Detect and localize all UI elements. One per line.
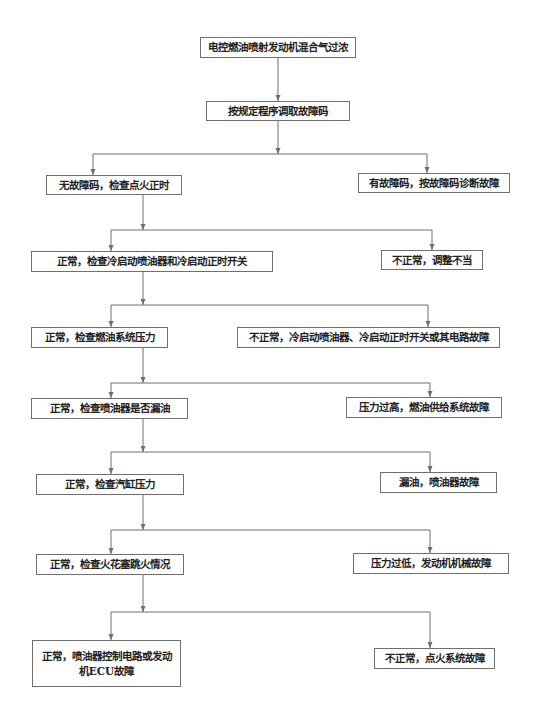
node-start: 电控燃油喷射发动机混合气过浓 (200, 37, 356, 58)
node-label: 正常，检查喷油器是否漏油 (50, 401, 170, 416)
node-check-injector-leak: 正常，检查喷油器是否漏油 (31, 398, 188, 419)
node-label: 正常，检查汽缸压力 (65, 477, 155, 492)
node-label: 电控燃油喷射发动机混合气过浓 (208, 40, 348, 55)
node-label: 压力过高，燃油供给系统故障 (359, 400, 489, 415)
node-check-spark: 正常，检查火花塞跳火情况 (36, 554, 184, 575)
node-has-fault-code: 有故障码，按故障码诊断故障 (358, 173, 510, 193)
node-label: 正常，喷油器控制电路或发动机ECU故障 (37, 649, 176, 679)
node-label: 不正常，冷启动喷油器、冷启动正时开关或其电路故障 (249, 330, 489, 345)
node-label: 无故障码，检查点火正时 (59, 178, 169, 193)
node-ecu-fault: 正常，喷油器控制电路或发动机ECU故障 (32, 640, 181, 687)
node-timing-bad: 不正常，调整不当 (381, 250, 483, 270)
node-label: 不正常，调整不当 (392, 253, 472, 268)
node-no-fault-code: 无故障码，检查点火正时 (46, 175, 182, 195)
node-ignition-fault: 不正常，点火系统故障 (374, 648, 495, 669)
flowchart-canvas: 电控燃油喷射发动机混合气过浓 按规定程序调取故障码 无故障码，检查点火正时 有故… (0, 0, 540, 722)
node-check-fuel-pressure: 正常，检查燃油系统压力 (31, 327, 168, 348)
node-check-cylinder-pressure: 正常，检查汽缸压力 (36, 474, 184, 495)
node-label: 有故障码，按故障码诊断故障 (369, 176, 499, 191)
node-injector-leak-fault: 漏油，喷油器故障 (380, 472, 497, 493)
node-label: 正常，检查火花塞跳火情况 (50, 557, 170, 572)
node-label: 压力过低，发动机机械故障 (371, 556, 491, 571)
node-low-pressure-fault: 压力过低，发动机机械故障 (353, 553, 509, 574)
node-label: 按规定程序调取故障码 (228, 104, 328, 119)
node-label: 不正常，点火系统故障 (385, 651, 485, 666)
node-label: 正常，检查冷启动喷油器和冷启动正时开关 (57, 254, 247, 269)
node-label: 正常，检查燃油系统压力 (45, 330, 155, 345)
node-label: 漏油，喷油器故障 (399, 475, 479, 490)
node-check-cold-start: 正常，检查冷启动喷油器和冷启动正时开关 (31, 251, 273, 272)
node-cold-start-fault: 不正常，冷启动喷油器、冷启动正时开关或其电路故障 (237, 327, 500, 348)
node-high-pressure-fault: 压力过高，燃油供给系统故障 (346, 397, 502, 418)
node-read-fault-codes: 按规定程序调取故障码 (206, 101, 350, 121)
